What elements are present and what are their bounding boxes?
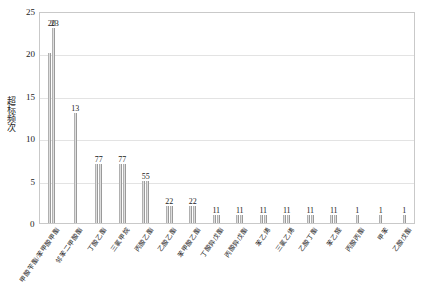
bar-value-label: 11: [212, 207, 220, 215]
x-axis-label: 丁酸异戊酯: [199, 226, 225, 259]
x-axis-label: 三氯甲烷: [109, 226, 131, 253]
bar[interactable]: [74, 113, 77, 223]
bar-group[interactable]: [228, 215, 252, 223]
bar-group[interactable]: [64, 113, 88, 223]
y-axis-tick-zero: 0: [30, 220, 35, 229]
bar-value-label: 77: [118, 156, 126, 164]
bar-group[interactable]: [134, 181, 158, 223]
y-axis-tick-15: 15: [26, 92, 35, 101]
bar-value-label: 13: [71, 105, 79, 113]
bar[interactable]: [307, 215, 310, 223]
x-axis-label: 丙酸异戊酯: [223, 226, 249, 259]
x-axis-label: 丙酸丙酯: [344, 226, 366, 253]
bar-value-label: 11: [306, 207, 314, 215]
bar-value-label: 11: [330, 207, 338, 215]
x-axis-label: 三氯乙烯: [274, 226, 296, 253]
bar[interactable]: [123, 164, 126, 223]
bar[interactable]: [142, 181, 145, 223]
bar[interactable]: [189, 206, 192, 223]
bar-value-label: 11: [259, 207, 267, 215]
y-axis-tick-25: 25: [26, 8, 35, 17]
bar[interactable]: [166, 206, 169, 223]
bar-group[interactable]: [346, 215, 370, 223]
bar[interactable]: [264, 215, 267, 223]
bar-group[interactable]: [393, 215, 417, 223]
x-axis-label: 乙酸戊酯: [391, 226, 413, 253]
bar[interactable]: [334, 215, 337, 223]
bar[interactable]: [99, 164, 102, 223]
bar[interactable]: [240, 215, 243, 223]
bar[interactable]: [283, 215, 286, 223]
bar[interactable]: [217, 215, 220, 223]
bar[interactable]: [260, 215, 263, 223]
bar-group[interactable]: [40, 28, 64, 223]
y-axis-title: 超标频次: [2, 96, 16, 132]
x-axis-label: 苯乙醛: [325, 226, 343, 248]
x-axis-label: 甲苯: [376, 226, 390, 242]
bar[interactable]: [170, 206, 173, 223]
bar[interactable]: [379, 215, 382, 223]
bar-group[interactable]: [181, 206, 205, 223]
bar-group[interactable]: [87, 164, 111, 223]
bar[interactable]: [311, 215, 314, 223]
bar-value-label: 55: [142, 173, 150, 181]
bar[interactable]: [403, 215, 406, 223]
bar-value-label: 11: [283, 207, 291, 215]
bar-value-label-peak: 23: [51, 20, 59, 28]
bar-value-label: 1: [402, 207, 406, 215]
bar-group[interactable]: [275, 215, 299, 223]
bar[interactable]: [330, 215, 333, 223]
bar[interactable]: [213, 215, 216, 223]
bar-value-label: 1: [355, 207, 359, 215]
y-axis-tick-labels: 510152025: [16, 12, 38, 224]
bar-value-label: 1: [379, 207, 383, 215]
x-axis-label: 丙酸乙酯: [133, 226, 155, 253]
bar[interactable]: [356, 215, 359, 223]
bar-chart: 超标频次 510152025 2013777755222211111111111…: [0, 0, 428, 287]
x-axis-label: 丁酸乙酯: [86, 226, 108, 253]
bar-group[interactable]: [205, 215, 229, 223]
x-axis-label: 乙酸乙酯: [156, 226, 178, 253]
bar-group[interactable]: [322, 215, 346, 223]
bar[interactable]: [52, 28, 55, 223]
bar-value-label: 11: [236, 207, 244, 215]
x-axis-category-labels: 甲酸苄酯/苯甲酸甲酯邻苯二甲酸酯丁酸乙酯三氯甲烷丙酸乙酯乙酸乙酯苯甲酸乙酯丁酸异…: [39, 226, 415, 287]
bar-value-label: 22: [189, 198, 197, 206]
y-axis-tick-5: 5: [31, 177, 36, 186]
bar[interactable]: [287, 215, 290, 223]
bar-value-label: 77: [95, 156, 103, 164]
y-axis-tick-10: 10: [26, 135, 35, 144]
x-axis-label: 苯乙烯: [254, 226, 272, 248]
bar[interactable]: [119, 164, 122, 223]
bars-layer: 2013777755222211111111111111123: [40, 13, 414, 223]
bar-group[interactable]: [299, 215, 323, 223]
bar-value-label: 22: [165, 198, 173, 206]
x-axis-label: 甲酸苄酯/苯甲酸甲酯: [18, 226, 61, 283]
bar[interactable]: [193, 206, 196, 223]
bar[interactable]: [95, 164, 98, 223]
bar-group[interactable]: [158, 206, 182, 223]
bar-group[interactable]: [252, 215, 276, 223]
bar[interactable]: [236, 215, 239, 223]
bar[interactable]: [146, 181, 149, 223]
bar[interactable]: [48, 53, 51, 223]
x-axis-label: 乙酸丁酯: [297, 226, 319, 253]
y-axis-tick-20: 20: [26, 50, 35, 59]
bar-group[interactable]: [369, 215, 393, 223]
plot-area: 2013777755222211111111111111123: [39, 12, 415, 224]
bar-group[interactable]: [111, 164, 135, 223]
